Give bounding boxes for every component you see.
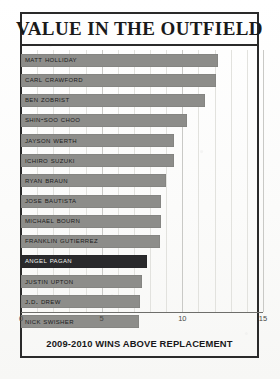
bar-row: Ryan Braun [21,171,263,191]
bar-row: Justin Upton [21,272,263,292]
bar-row: Ben Zobrist [21,90,263,110]
bar-row: Matt Holliday [21,50,263,70]
bar-highlighted: Angel Pagan [21,255,147,268]
x-tick-label: 10 [178,314,186,323]
bar: Ben Zobrist [21,94,205,107]
bar-row: Shin-Soo Choo [21,110,263,130]
bar-row: Carl Crawford [21,70,263,90]
bar-row: Ichiro Suzuki [21,151,263,171]
title-divider [22,44,257,46]
bar: Matt Holliday [21,54,218,67]
bar-label: Ichiro Suzuki [25,157,75,165]
x-tick-label: 5 [100,314,104,323]
bar-row: Jayson Werth [21,131,263,151]
bar: Jose Bautista [21,195,161,208]
bar-label: Carl Crawford [25,76,83,84]
x-tick-label: 15 [259,314,267,323]
bar-label: Justin Upton [25,278,73,286]
bar-row: Angel Pagan [21,251,263,271]
bar-label: J.D. Drew [25,298,61,306]
bar-rows: Matt HollidayCarl CrawfordBen ZobristShi… [21,50,263,312]
bar-label: Franklin Gutierrez [25,237,98,245]
bar-row: J.D. Drew [21,292,263,312]
plot-area: Matt HollidayCarl CrawfordBen ZobristShi… [21,50,263,312]
bar: Michael Bourn [21,215,161,228]
chart-page: VALUE IN THE OUTFIELD Matt HollidayCarl … [0,0,280,379]
bar: Jayson Werth [21,134,174,147]
bar: Ryan Braun [21,174,166,187]
bar-row: Jose Bautista [21,191,263,211]
x-axis-line [21,312,263,313]
bar-label: Matt Holliday [25,56,77,64]
bar-label: Jose Bautista [25,197,76,205]
bar-label: Jayson Werth [25,137,77,145]
bar: Shin-Soo Choo [21,114,187,127]
bar: J.D. Drew [21,295,140,308]
x-axis-ticks: 051015 [0,314,280,328]
bar: Ichiro Suzuki [21,154,174,167]
gridline-major [263,50,264,312]
chart-title: VALUE IN THE OUTFIELD [22,16,257,42]
bar-label: Michael Bourn [25,217,80,225]
chart-caption: 2009-2010 WINS ABOVE REPLACEMENT [22,332,257,354]
bar-row: Michael Bourn [21,211,263,231]
bar-label: Shin-Soo Choo [25,116,80,124]
bar-row: Franklin Gutierrez [21,231,263,251]
bar-label: Ben Zobrist [25,96,69,104]
x-tick-label: 0 [19,314,23,323]
bar: Justin Upton [21,275,142,288]
bar-label: Ryan Braun [25,177,68,185]
bar-label: Angel Pagan [25,257,72,265]
bar: Franklin Gutierrez [21,235,160,248]
bar: Carl Crawford [21,74,216,87]
